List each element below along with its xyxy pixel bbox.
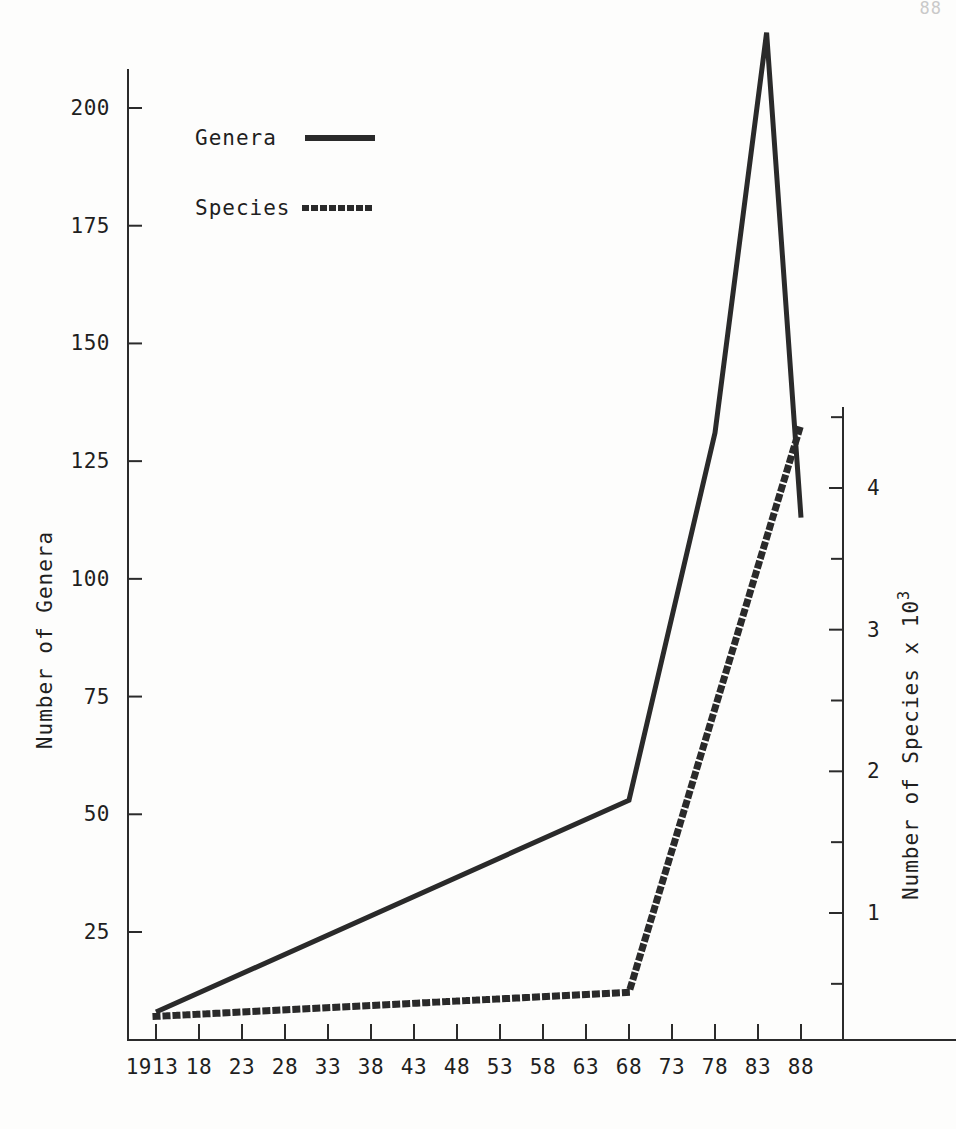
y-axis-left-title: Number of Genera bbox=[33, 531, 57, 749]
ticks-group bbox=[128, 108, 843, 1040]
x-axis-tick-label: 58 bbox=[530, 1055, 556, 1079]
y-axis-left-tick-label: 75 bbox=[84, 685, 110, 709]
y-axis-left-tick-label: 125 bbox=[71, 449, 110, 473]
y-axis-left-tick-label: 50 bbox=[84, 802, 110, 826]
y-axis-right-title-exponent: 3 bbox=[895, 590, 913, 600]
y-axis-left-tick-label: 150 bbox=[71, 331, 110, 355]
x-axis-tick-label: 63 bbox=[573, 1055, 599, 1079]
data-series-group bbox=[156, 33, 801, 1017]
y-axis-right-tick-label: 1 bbox=[867, 901, 880, 925]
x-axis-tick-label: 53 bbox=[487, 1055, 513, 1079]
y-axis-right-tick-label: 4 bbox=[867, 476, 880, 500]
x-axis-tick-label: 23 bbox=[229, 1055, 255, 1079]
y-axis-right-tick-label: 3 bbox=[867, 618, 880, 642]
y-axis-left-tick-label: 100 bbox=[71, 567, 110, 591]
tick-labels-group: 2550751001251501752001234191318232833384… bbox=[71, 96, 881, 1079]
y-axis-left-tick-label: 25 bbox=[84, 920, 110, 944]
legend-group: GeneraSpecies bbox=[195, 126, 375, 220]
x-axis-tick-label: 28 bbox=[272, 1055, 298, 1079]
x-axis-tick-label: 48 bbox=[444, 1055, 470, 1079]
x-axis-tick-label: 38 bbox=[358, 1055, 384, 1079]
line-chart-canvas: 2550751001251501752001234191318232833384… bbox=[0, 0, 956, 1129]
y-axis-right-tick-label: 2 bbox=[867, 759, 880, 783]
x-axis-tick-label: 18 bbox=[186, 1055, 212, 1079]
x-axis-tick-label: 1913 bbox=[126, 1055, 179, 1079]
x-axis-tick-label: 73 bbox=[659, 1055, 685, 1079]
x-axis-tick-label: 88 bbox=[788, 1055, 814, 1079]
x-axis-tick-label: 43 bbox=[401, 1055, 427, 1079]
y-axis-left-tick-label: 200 bbox=[71, 96, 110, 120]
legend-label-species: Species bbox=[195, 196, 291, 220]
legend-label-genera: Genera bbox=[195, 126, 277, 150]
x-axis-tick-label: 78 bbox=[702, 1055, 728, 1079]
series-line-species bbox=[156, 424, 801, 1016]
axis-labels-group: Number of GeneraNumber of Species x 103 bbox=[33, 531, 923, 900]
series-line-genera bbox=[156, 33, 801, 1012]
x-axis-tick-label: 83 bbox=[745, 1055, 771, 1079]
chart-figure: 88 2550751001251501752001234191318232833… bbox=[0, 0, 956, 1129]
x-axis-tick-label: 33 bbox=[315, 1055, 341, 1079]
x-axis-tick-label: 68 bbox=[616, 1055, 642, 1079]
y-axis-left-tick-label: 175 bbox=[71, 214, 110, 238]
y-axis-right-title: Number of Species x 103 bbox=[895, 590, 923, 900]
